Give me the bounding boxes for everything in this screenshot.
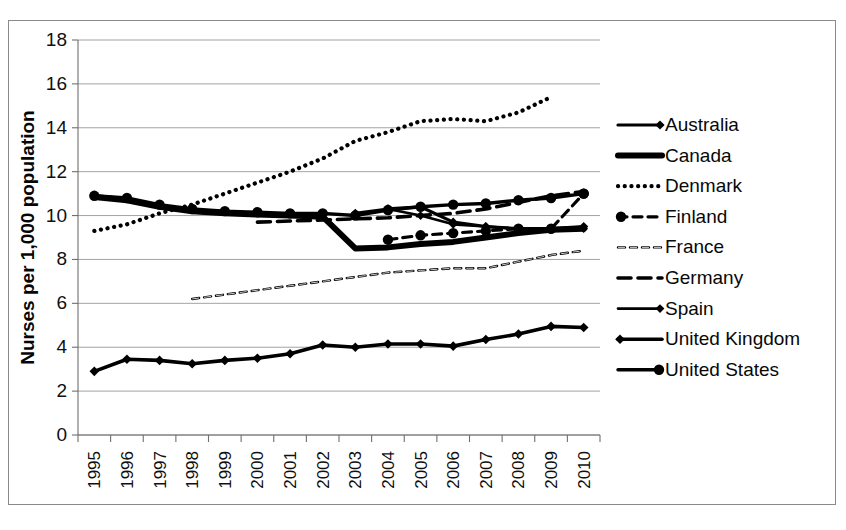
- data-point: [579, 323, 589, 333]
- x-axis-tick-label: 2001: [281, 451, 300, 489]
- data-point: [546, 193, 556, 203]
- legend-label: France: [665, 236, 724, 257]
- y-axis-tick-label: 14: [46, 117, 68, 138]
- x-axis-tick-label: 2004: [379, 451, 398, 489]
- x-axis-tick-label: 2006: [444, 451, 463, 489]
- data-point: [285, 349, 295, 359]
- legend-label: Canada: [665, 145, 732, 166]
- legend-label: Denmark: [665, 175, 743, 196]
- y-axis-tick-label: 8: [56, 248, 67, 269]
- legend-item-denmark[interactable]: Denmark: [618, 175, 743, 196]
- data-point: [415, 230, 425, 240]
- data-point: [317, 208, 327, 218]
- legend-marker: [654, 365, 664, 375]
- nurses-per-1000-line-chart: 024681012141618Nurses per 1,000 populati…: [0, 0, 846, 530]
- x-axis-tick-label: 1997: [151, 451, 170, 489]
- data-point: [481, 198, 491, 208]
- x-axis-tick-label: 2007: [477, 451, 496, 489]
- x-axis-tick-label: 1998: [183, 451, 202, 489]
- data-point: [318, 340, 328, 350]
- series-line: [192, 251, 584, 299]
- legend-item-germany[interactable]: Germany: [618, 267, 744, 288]
- legend-item-spain[interactable]: Spain: [618, 298, 714, 319]
- x-axis-tick-label: 2009: [542, 451, 561, 489]
- data-point: [448, 199, 458, 209]
- legend-item-united-kingdom[interactable]: United Kingdom: [615, 328, 800, 349]
- legend-item-finland[interactable]: Finland: [616, 206, 728, 227]
- x-axis-tick-label: 2005: [412, 451, 431, 489]
- y-axis-tick-label: 18: [46, 29, 67, 50]
- data-point: [154, 199, 164, 209]
- data-point: [187, 204, 197, 214]
- x-axis: 1995199619971998199920002001200220032004…: [78, 435, 600, 489]
- y-axis-tick-label: 4: [56, 336, 67, 357]
- chart-figure: 024681012141618Nurses per 1,000 populati…: [0, 0, 846, 530]
- legend-item-france[interactable]: France: [618, 236, 724, 257]
- data-point: [90, 367, 100, 377]
- legend-item-united-states[interactable]: United States: [618, 359, 779, 380]
- data-point: [546, 322, 556, 332]
- data-point: [481, 335, 491, 345]
- data-point: [155, 356, 165, 366]
- data-point: [187, 359, 197, 369]
- y-axis-tick-label: 2: [56, 380, 67, 401]
- data-point: [122, 193, 132, 203]
- legend-label: Australia: [665, 114, 739, 135]
- data-point: [514, 329, 524, 339]
- legend-marker: [615, 334, 625, 344]
- series-line: [94, 326, 583, 371]
- legend-label: Germany: [665, 267, 744, 288]
- series-united-kingdom: [90, 322, 589, 377]
- data-point: [513, 195, 523, 205]
- y-axis: 024681012141618: [46, 29, 78, 445]
- legend-marker: [655, 120, 664, 129]
- data-point: [578, 188, 588, 198]
- x-axis-tick-label: 2010: [575, 451, 594, 489]
- chart-legend: AustraliaCanadaDenmarkFinlandFranceGerma…: [615, 114, 800, 380]
- y-axis-tick-label: 16: [46, 73, 67, 94]
- legend-marker: [656, 304, 665, 313]
- y-axis-tick-label: 10: [46, 205, 67, 226]
- x-axis-tick-label: 2003: [346, 451, 365, 489]
- x-axis-tick-label: 2008: [509, 451, 528, 489]
- legend-item-australia[interactable]: Australia: [618, 114, 739, 135]
- series-france: [192, 251, 584, 299]
- data-point: [383, 205, 393, 215]
- y-axis-title: Nurses per 1,000 population: [17, 110, 38, 364]
- data-point: [351, 342, 361, 352]
- y-axis-tick-label: 6: [56, 292, 67, 313]
- y-axis-tick-label: 12: [46, 161, 67, 182]
- legend-item-canada[interactable]: Canada: [618, 145, 732, 166]
- data-point: [448, 341, 458, 351]
- legend-label: United States: [665, 359, 779, 380]
- legend-label: Spain: [665, 298, 714, 319]
- data-point: [416, 211, 425, 220]
- x-axis-tick-label: 1995: [85, 451, 104, 489]
- legend-label: United Kingdom: [665, 328, 800, 349]
- x-axis-tick-label: 2002: [314, 451, 333, 489]
- data-point: [220, 356, 230, 366]
- data-point: [350, 210, 360, 220]
- data-series-group: [89, 97, 589, 376]
- y-axis-tick-label: 0: [56, 424, 67, 445]
- gridlines: [78, 40, 600, 435]
- data-point: [415, 202, 425, 212]
- data-point: [252, 207, 262, 217]
- legend-label: Finland: [665, 206, 727, 227]
- data-point: [220, 206, 230, 216]
- data-point: [383, 234, 393, 244]
- data-point: [448, 228, 458, 238]
- x-axis-tick-label: 1996: [118, 451, 137, 489]
- x-axis-tick-label: 2000: [248, 451, 267, 489]
- data-point: [253, 353, 263, 363]
- data-point: [89, 191, 99, 201]
- data-point: [122, 354, 132, 364]
- data-point: [285, 208, 295, 218]
- legend-marker: [616, 212, 626, 222]
- x-axis-tick-label: 1999: [216, 451, 235, 489]
